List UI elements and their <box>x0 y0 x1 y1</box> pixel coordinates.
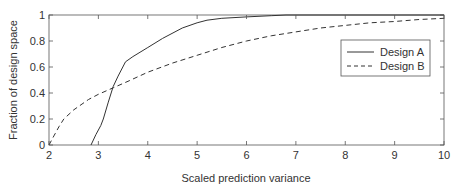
y-tick-label: 0 <box>39 139 45 151</box>
y-tick-label: 0.4 <box>30 87 45 99</box>
x-tick-label: 9 <box>392 149 398 161</box>
y-axis-label: Fraction of design space <box>7 20 19 140</box>
series-line-design-a <box>91 15 444 145</box>
legend: Design A Design B <box>341 40 430 76</box>
axes-frame <box>49 15 444 145</box>
axis-ticks: 234567891000.20.40.60.81 <box>30 9 450 161</box>
y-tick-label: 0.2 <box>30 113 45 125</box>
x-tick-label: 2 <box>46 149 52 161</box>
legend-label-design-a: Design A <box>380 46 425 58</box>
y-tick-label: 1 <box>39 9 45 21</box>
x-tick-label: 10 <box>438 149 450 161</box>
plot-area <box>49 15 444 145</box>
series-layer <box>49 15 444 145</box>
legend-label-design-b: Design B <box>380 60 425 72</box>
x-axis-label: Scaled prediction variance <box>181 172 310 184</box>
series-line-design-b <box>49 18 444 145</box>
x-tick-label: 6 <box>243 149 249 161</box>
x-tick-label: 8 <box>342 149 348 161</box>
x-tick-label: 3 <box>95 149 101 161</box>
line-chart: 234567891000.20.40.60.81 Scaled predicti… <box>0 0 462 186</box>
y-tick-label: 0.6 <box>30 61 45 73</box>
x-tick-label: 4 <box>145 149 151 161</box>
x-tick-label: 7 <box>293 149 299 161</box>
x-tick-label: 5 <box>194 149 200 161</box>
y-tick-label: 0.8 <box>30 35 45 47</box>
